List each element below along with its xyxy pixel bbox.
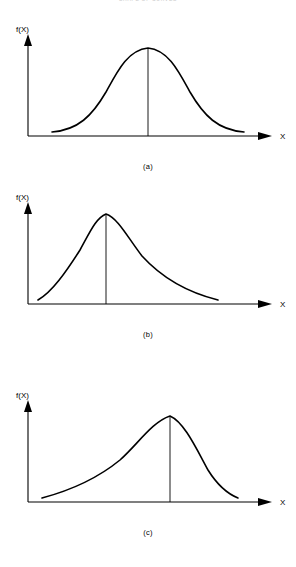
x-axis-label-b: X xyxy=(280,300,286,309)
y-axis-label-a: f(X) xyxy=(16,25,29,34)
caption-a: (a) xyxy=(0,162,296,171)
x-axis-label-c: X xyxy=(280,498,286,507)
y-axis-label-b: f(X) xyxy=(16,193,29,202)
figure-panel-c: f(X) X (c) xyxy=(0,386,296,546)
plot-a: f(X) X xyxy=(0,20,296,160)
y-axis-arrow-c xyxy=(24,400,32,412)
y-axis-arrow-b xyxy=(24,202,32,214)
x-axis-label-a: X xyxy=(280,132,286,141)
caption-b: (b) xyxy=(0,330,296,339)
x-axis-arrow-a xyxy=(258,132,272,140)
x-axis-arrow-c xyxy=(258,498,272,506)
y-axis-label-c: f(X) xyxy=(16,391,29,400)
figure-panel-b: f(X) X (b) xyxy=(0,188,296,348)
caption-c: (c) xyxy=(0,528,296,537)
density-curve-b xyxy=(38,214,218,300)
density-curve-c xyxy=(42,416,238,498)
figure-panel-a: f(X) X (a) xyxy=(0,20,296,180)
x-axis-arrow-b xyxy=(258,300,272,308)
plot-b: f(X) X xyxy=(0,188,296,328)
running-head: SHAPE OF CURVES xyxy=(0,0,296,2)
plot-c: f(X) X xyxy=(0,386,296,526)
y-axis-arrow-a xyxy=(24,34,32,46)
